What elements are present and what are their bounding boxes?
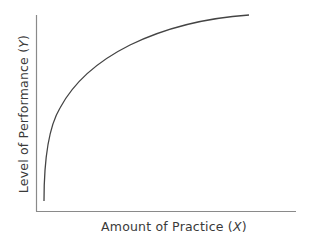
y-variable: Y xyxy=(16,40,31,48)
x-axis-label-close: ) xyxy=(242,219,247,234)
chart-plot-area xyxy=(0,0,314,247)
y-axis-label: Level of Performance (Y) xyxy=(16,35,31,193)
y-axis-label-text: Level of Performance ( xyxy=(16,48,31,193)
learning-curve-chart: Amount of Practice (X) Level of Performa… xyxy=(0,0,314,247)
y-axis-label-close: ) xyxy=(16,35,31,40)
x-axis-label-text: Amount of Practice ( xyxy=(101,219,233,234)
x-variable: X xyxy=(233,219,242,234)
performance-curve xyxy=(44,15,249,201)
